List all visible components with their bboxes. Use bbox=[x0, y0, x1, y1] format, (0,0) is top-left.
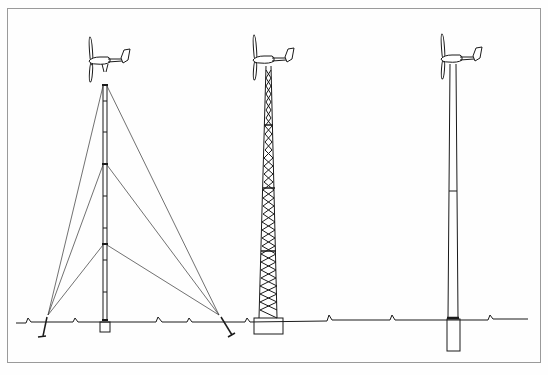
guy-wires bbox=[48, 86, 219, 315]
lattice-tower bbox=[253, 35, 294, 334]
turbine-head-2 bbox=[253, 35, 294, 80]
guy-anchors bbox=[38, 317, 235, 337]
tubular-tower bbox=[441, 34, 482, 351]
turbine-head-3 bbox=[441, 34, 482, 79]
guyed-mast-tower bbox=[38, 37, 235, 337]
turbine-head-1 bbox=[89, 37, 130, 82]
tower-diagram bbox=[0, 0, 548, 375]
figure-canvas bbox=[0, 0, 548, 375]
